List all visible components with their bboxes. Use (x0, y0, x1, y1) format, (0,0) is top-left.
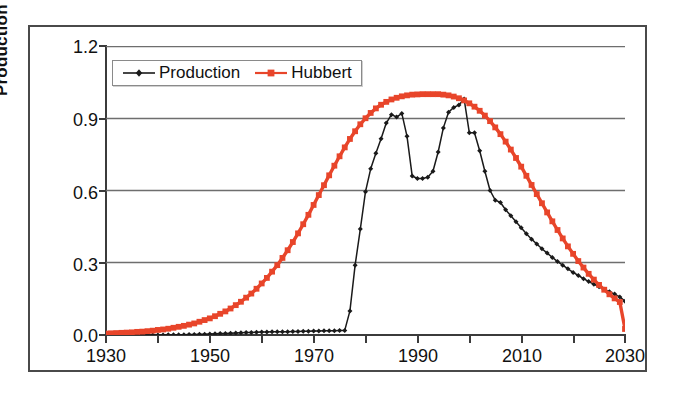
data-point-diamond (218, 331, 223, 335)
data-point-square (570, 251, 576, 257)
data-point-diamond (187, 332, 192, 335)
data-point-square (425, 91, 431, 97)
data-point-diamond (290, 329, 295, 334)
data-point-diamond (415, 176, 420, 181)
data-point-square (581, 265, 587, 271)
data-point-square (181, 323, 187, 329)
data-point-diamond (264, 330, 269, 335)
x-tick-mark-1980 (365, 335, 367, 343)
data-point-square (622, 326, 625, 332)
data-point-diamond (275, 329, 280, 334)
data-point-square (119, 330, 125, 335)
data-point-square (254, 286, 260, 292)
legend-item-production[interactable]: Production (122, 64, 240, 81)
data-point-diamond (347, 308, 352, 313)
chart-figure: 1.2 0.9 0.6 0.3 0.0 Production Gb/a 1 (0, 0, 675, 396)
data-point-square (274, 262, 280, 268)
data-point-square (306, 212, 312, 218)
data-point-square (212, 313, 218, 319)
data-point-diamond (420, 176, 425, 181)
data-point-square (243, 295, 249, 301)
data-point-diamond (181, 332, 186, 335)
data-point-square (150, 328, 156, 334)
data-point-diamond (311, 328, 316, 333)
data-point-diamond (285, 329, 290, 334)
y-tick-label-1_2: 1.2 (52, 38, 98, 56)
legend-label-production: Production (159, 64, 240, 81)
data-point-square (523, 173, 529, 179)
data-point-square (316, 192, 322, 198)
data-point-square (352, 128, 358, 134)
x-tick-mark-2020 (573, 335, 575, 343)
data-point-diamond (270, 329, 275, 334)
x-tick-mark-1950 (209, 335, 211, 343)
data-point-square (378, 102, 384, 108)
data-point-square (435, 91, 441, 97)
data-point-square (451, 94, 457, 100)
data-point-square (529, 182, 535, 188)
data-point-square (347, 136, 353, 142)
data-point-diamond (249, 330, 254, 335)
data-point-square (560, 236, 566, 242)
data-point-diamond (301, 329, 306, 334)
data-point-diamond (259, 330, 264, 335)
data-point-square (586, 271, 592, 277)
legend-item-hubbert[interactable]: Hubbert (254, 64, 351, 81)
y-tick-label-0_3: 0.3 (52, 256, 98, 274)
data-point-square (171, 325, 177, 331)
data-point-square (607, 291, 613, 297)
data-point-diamond (202, 332, 207, 335)
data-point-diamond (436, 149, 441, 154)
data-point-square (222, 309, 228, 315)
data-point-diamond (342, 328, 347, 333)
data-point-diamond (306, 329, 311, 334)
data-point-square (498, 131, 504, 137)
data-point-square (321, 182, 327, 188)
data-point-square (357, 121, 363, 127)
data-point-square (295, 230, 301, 236)
data-point-diamond (467, 130, 472, 135)
data-point-square (264, 275, 270, 281)
data-point-square (404, 92, 410, 98)
data-point-square (487, 118, 493, 124)
y-tick-label-0_0: 0.0 (52, 327, 98, 345)
data-point-diamond (441, 125, 446, 130)
data-point-square (549, 218, 555, 224)
data-point-square (191, 321, 197, 327)
data-point-square (280, 255, 286, 261)
data-point-square (430, 91, 436, 97)
data-point-square (124, 330, 130, 335)
data-point-square (409, 92, 415, 98)
data-point-diamond (171, 332, 176, 335)
data-point-diamond (332, 328, 337, 333)
data-point-diamond (353, 263, 358, 268)
x-tick-label-2030: 2030 (590, 347, 660, 365)
legend-marker-diamond-icon (122, 66, 156, 80)
x-tick-label-1990: 1990 (383, 347, 453, 365)
data-point-square (134, 329, 140, 335)
data-point-square (555, 227, 561, 233)
data-point-square (617, 299, 623, 305)
data-point-square (269, 269, 275, 275)
data-point-diamond (358, 227, 363, 232)
data-point-square (129, 329, 135, 335)
data-point-square (311, 202, 317, 208)
data-point-square (466, 100, 472, 106)
y-tick-label-0_9: 0.9 (52, 111, 98, 129)
data-point-square (440, 92, 446, 98)
data-point-square (186, 322, 192, 328)
x-tick-mark-1930 (105, 335, 107, 343)
data-point-square (544, 210, 550, 216)
data-point-diamond (161, 333, 166, 336)
data-point-square (197, 319, 203, 325)
data-point-square (492, 125, 498, 131)
data-point-square (259, 281, 265, 287)
data-point-diamond (197, 332, 202, 335)
data-point-diamond (223, 331, 228, 335)
data-point-square (248, 291, 254, 297)
data-point-square (575, 258, 581, 264)
data-point-square (113, 330, 119, 335)
data-point-diamond (337, 328, 342, 333)
data-point-square (290, 239, 296, 245)
chart-legend: Production Hubbert (112, 60, 362, 86)
